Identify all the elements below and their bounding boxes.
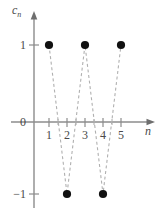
y-axis-arrow-icon [31,11,38,20]
y-tick-label-minus-1: −1 [0,188,26,200]
plot-canvas [0,0,168,213]
x-tick-label-5: 5 [118,129,124,141]
chart-figure: cn n 1 0 −1 1 2 3 4 5 [0,0,168,213]
x-tick-label-3: 3 [82,129,88,141]
x-tick-label-1: 1 [46,129,52,141]
data-point [99,190,107,198]
data-point [45,41,53,49]
x-axis-label: n [145,125,151,137]
x-tick-label-4: 4 [100,129,106,141]
data-point [63,190,71,198]
y-tick-label-1: 1 [0,39,26,51]
y-tick-label-0: 0 [0,116,26,128]
y-axis-label: cn [12,4,21,19]
data-point [81,41,89,49]
y-axis-label-subscript: n [17,10,21,19]
x-tick-label-2: 2 [64,129,70,141]
data-point [117,41,125,49]
